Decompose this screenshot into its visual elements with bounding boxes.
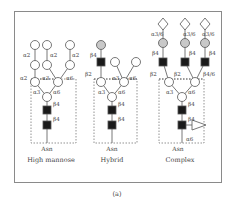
glcnac-icon [159, 58, 209, 66]
svg-text:α3: α3 [166, 89, 174, 95]
glcnac-icon [97, 58, 105, 66]
svg-text:α2: α2 [50, 52, 57, 58]
svg-text:β2: β2 [85, 71, 92, 78]
svg-text:β4: β4 [90, 52, 97, 59]
svg-text:α3: α3 [112, 75, 120, 81]
svg-text:α6: α6 [129, 75, 137, 81]
svg-text:β4: β4 [152, 50, 159, 57]
asn-label: Asn [171, 145, 183, 152]
svg-text:β2: β2 [174, 71, 181, 78]
glycan-figure: α2 α2 α2 α2 α3 α6 α3 α6 β4 β4 Asn High m… [0, 0, 233, 199]
panel-title-high-mannose: High mannose [27, 156, 75, 164]
svg-text:β4: β4 [188, 116, 195, 123]
svg-text:α3/6: α3/6 [183, 31, 196, 37]
svg-text:β4: β4 [188, 101, 195, 108]
sialic-acid-icon [158, 18, 210, 30]
svg-text:β4: β4 [53, 101, 60, 108]
panel-title-hybrid: Hybrid [101, 156, 124, 164]
svg-text:α6: α6 [66, 75, 74, 81]
svg-text:β4: β4 [118, 101, 125, 108]
svg-text:α6: α6 [53, 89, 61, 95]
figure-caption: (a) [113, 190, 122, 198]
svg-text:β4: β4 [189, 50, 196, 57]
svg-text:α2: α2 [20, 75, 27, 81]
svg-text:α6: α6 [186, 136, 194, 142]
galactose-icon [159, 39, 210, 48]
galactose-icon [97, 41, 106, 50]
svg-text:β4/6: β4/6 [203, 71, 216, 78]
svg-text:α3/6: α3/6 [202, 31, 215, 37]
panel-title-complex: Complex [166, 156, 195, 164]
svg-text:β4: β4 [209, 50, 216, 57]
svg-text:β4: β4 [118, 116, 125, 123]
svg-text:β4: β4 [53, 116, 60, 123]
asn-label: Asn [40, 145, 52, 152]
svg-text:α3: α3 [33, 89, 41, 95]
svg-text:β2: β2 [150, 71, 157, 78]
asn-label: Asn [105, 145, 117, 152]
svg-text:α6: α6 [188, 89, 196, 95]
svg-text:α3/6: α3/6 [151, 31, 164, 37]
svg-text:α3: α3 [42, 75, 50, 81]
svg-text:α6: α6 [118, 89, 126, 95]
svg-text:α3: α3 [98, 89, 106, 95]
svg-text:α2: α2 [23, 52, 30, 58]
svg-text:α2: α2 [72, 52, 79, 58]
